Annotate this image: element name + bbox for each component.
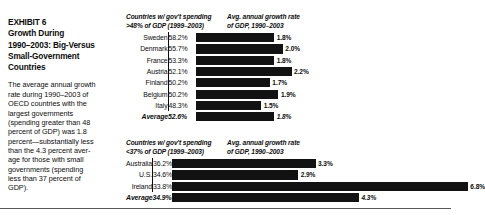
country-name: Australia xyxy=(126,158,153,169)
growth-value-label: 2.0% xyxy=(283,44,300,53)
growth-bar-cell: 3.3% xyxy=(172,158,485,169)
data-table-small-government: Australia36.2%3.3%U.S.34.6%2.9%Ireland33… xyxy=(126,158,485,203)
panel-headers: Countries w/ gov't spending>48% of GDP (… xyxy=(126,13,451,32)
country-name: Denmark xyxy=(126,43,168,54)
header-right-line-0: Avg. annual growth rate xyxy=(227,139,300,148)
country-name: Finland xyxy=(126,77,168,88)
growth-bar xyxy=(172,182,468,191)
title-line-2: 1990–2003: Big-Versus xyxy=(8,40,120,51)
growth-value-label: 1.8% xyxy=(274,56,291,65)
growth-value-label: 3.3% xyxy=(316,159,333,168)
government-spending-pct: 52.1% xyxy=(168,66,196,77)
government-spending-pct: 34.6% xyxy=(153,169,173,180)
body-line-10: less than 37 percent of xyxy=(8,174,120,183)
body-line-1: rate during 1990–2003 of xyxy=(8,90,120,99)
table-row: Finland50.2%1.7% xyxy=(126,77,451,88)
bar-wrapper: 1.8% xyxy=(196,33,451,42)
growth-value-label: 1.5% xyxy=(261,101,278,110)
government-spending-pct: 48.3% xyxy=(168,100,196,111)
growth-bar-cell: 1.7% xyxy=(196,77,451,88)
growth-bar xyxy=(196,101,261,110)
growth-bar-cell: 1.8% xyxy=(196,111,451,122)
table-row: Belgium50.2%1.9% xyxy=(126,88,451,99)
growth-bar-cell: 1.8% xyxy=(196,55,451,66)
table-row: Austria52.1%2.2% xyxy=(126,66,451,77)
panel-headers: Countries w/ gov't spending<37% of GDP (… xyxy=(126,139,485,158)
body-line-0: The average annual growth xyxy=(8,80,120,89)
growth-bar-cell: 2.9% xyxy=(172,169,485,180)
title-line-3: Small-Government xyxy=(8,51,120,62)
bar-wrapper: 6.8% xyxy=(172,182,485,191)
growth-value-label: 2.2% xyxy=(292,67,309,76)
column-header-growth: Avg. annual growth rateof GDP, 1990–2003 xyxy=(227,139,300,156)
growth-bar xyxy=(196,90,279,99)
country-name: U.S. xyxy=(126,169,153,180)
growth-bar-cell: 4.3% xyxy=(172,192,485,203)
title-line-1: Growth During xyxy=(8,28,120,39)
growth-bar xyxy=(172,170,298,179)
country-name: France xyxy=(126,55,168,66)
growth-value-label: 4.3% xyxy=(359,193,376,202)
body-line-11: GDP). xyxy=(8,183,120,192)
growth-bar xyxy=(196,56,274,65)
country-name: Belgium xyxy=(126,88,168,99)
body-line-8: age for those with small xyxy=(8,155,120,164)
table-row: Australia36.2%3.3% xyxy=(126,158,485,169)
chart-panel-big-government: Countries w/ gov't spending>48% of GDP (… xyxy=(126,13,451,122)
growth-bar xyxy=(196,67,292,76)
title-line-4: Countries xyxy=(8,62,120,73)
header-left-line-1: >48% of GDP (1999–2003) xyxy=(126,22,211,31)
growth-bar xyxy=(172,159,316,168)
bottom-divider xyxy=(0,208,451,209)
bar-wrapper: 2.0% xyxy=(196,44,451,53)
body-line-4: (spending greater than 48 xyxy=(8,118,120,127)
table-body: Australia36.2%3.3%U.S.34.6%2.9%Ireland33… xyxy=(126,158,485,203)
bar-wrapper: 3.3% xyxy=(172,159,485,168)
government-spending-pct: 50.2% xyxy=(168,77,196,88)
column-header-spending: Countries w/ gov't spending>48% of GDP (… xyxy=(126,13,211,30)
table-row: France53.3%1.8% xyxy=(126,55,451,66)
growth-value-label: 1.8% xyxy=(274,112,291,121)
country-name: Sweden xyxy=(126,32,168,43)
body-line-7: than the 4.3 percent aver- xyxy=(8,146,120,155)
table-row: Denmark55.7%2.0% xyxy=(126,43,451,54)
government-spending-pct: 55.7% xyxy=(168,43,196,54)
exhibit-text-column: EXHIBIT 6Growth During1990–2003: Big-Ver… xyxy=(8,17,120,193)
growth-bar xyxy=(196,33,274,42)
column-header-spending: Countries w/ gov't spending<37% of GDP (… xyxy=(126,139,211,156)
header-left-line-1: <37% of GDP (1999–2003) xyxy=(126,148,211,157)
bar-wrapper: 1.5% xyxy=(196,101,451,110)
header-right-line-0: Avg. annual growth rate xyxy=(227,13,300,22)
country-name: Ireland xyxy=(126,181,153,192)
growth-bar xyxy=(196,78,270,87)
body-line-5: percent of GDP) was 1.8 xyxy=(8,127,120,136)
country-name: Average xyxy=(126,192,153,203)
growth-bar xyxy=(196,44,283,53)
table-row: Average34.9%4.3% xyxy=(126,192,485,203)
growth-bar-cell: 1.9% xyxy=(196,88,451,99)
bar-wrapper: 1.9% xyxy=(196,90,451,99)
body-line-2: OECD countries with the xyxy=(8,99,120,108)
body-line-9: governments (spending xyxy=(8,165,120,174)
growth-bar-cell: 6.8% xyxy=(172,181,485,192)
exhibit-description: The average annual growthrate during 199… xyxy=(8,80,120,192)
table-row: Sweden58.2%1.8% xyxy=(126,32,451,43)
government-spending-pct: 53.3% xyxy=(168,55,196,66)
growth-bar-cell: 1.5% xyxy=(196,100,451,111)
bar-wrapper: 1.7% xyxy=(196,78,451,87)
government-spending-pct: 33.8% xyxy=(153,181,173,192)
header-left-line-0: Countries w/ gov't spending xyxy=(126,13,211,22)
growth-bar xyxy=(172,193,359,202)
country-name: Austria xyxy=(126,66,168,77)
country-name: Italy xyxy=(126,100,168,111)
growth-bar-cell: 2.2% xyxy=(196,66,451,77)
header-left-line-0: Countries w/ gov't spending xyxy=(126,139,211,148)
body-line-3: largest governments xyxy=(8,109,120,118)
body-line-6: percent—substantially less xyxy=(8,137,120,146)
government-spending-pct: 50.2% xyxy=(168,88,196,99)
table-row: Average52.6%1.8% xyxy=(126,111,451,122)
table-row: Ireland33.8%6.8% xyxy=(126,181,485,192)
growth-bar-cell: 1.8% xyxy=(196,32,451,43)
bar-wrapper: 1.8% xyxy=(196,56,451,65)
